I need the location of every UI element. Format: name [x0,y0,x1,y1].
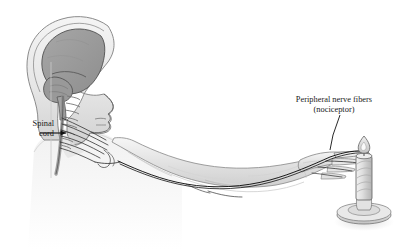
label-spinal-cord-line2: cord [8,129,54,139]
label-peripheral-line1: Peripheral nerve fibers [282,95,386,105]
label-spinal-cord: Spinal cord [8,119,54,138]
label-peripheral-line2: (nociceptor) [282,105,386,115]
leader-line-to-finger-nerve-endings [330,115,340,150]
lit-candle [334,136,394,231]
pain-pathway-illustration [0,0,401,249]
candle-flame [358,136,370,153]
label-peripheral-nerve-fibers: Peripheral nerve fibers (nociceptor) [282,95,386,114]
illustration-canvas: Spinal cord Peripheral nerve fibers (noc… [0,0,401,249]
label-spinal-cord-line1: Spinal [8,119,54,129]
candle-holder-saucer-base [337,197,391,224]
